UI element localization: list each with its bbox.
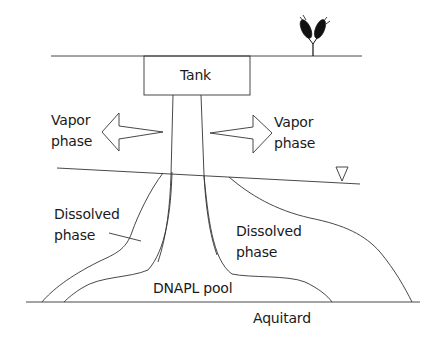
tank-label: Tank xyxy=(180,65,211,85)
dissolved-phase-left-label: Dissolved phase xyxy=(54,204,120,246)
vapor-right-line2: phase xyxy=(274,133,315,154)
vapor-phase-right-label: Vapor phase xyxy=(274,112,315,154)
stem-right-line xyxy=(201,95,217,255)
water-table-line xyxy=(57,168,360,184)
dissolved-left-line1: Dissolved xyxy=(54,204,120,225)
vapor-left-line1: Vapor xyxy=(51,110,92,131)
dissolved-right-line1: Dissolved xyxy=(236,221,302,242)
dissolved-phase-right-label: Dissolved phase xyxy=(236,221,302,263)
water-table-triangle xyxy=(336,167,348,181)
stem-left-line xyxy=(158,95,173,262)
vapor-left-line2: phase xyxy=(51,131,92,152)
vapor-arrow-right xyxy=(210,115,272,153)
dnapl-pool-label: DNAPL pool xyxy=(153,278,232,298)
plant-icon xyxy=(298,15,330,56)
vapor-right-line1: Vapor xyxy=(274,112,315,133)
dissolved-left-line2: phase xyxy=(54,225,120,246)
vapor-arrow-left xyxy=(102,113,163,151)
vapor-phase-left-label: Vapor phase xyxy=(51,110,92,152)
dissolved-right-line2: phase xyxy=(236,242,302,263)
aquitard-label: Aquitard xyxy=(253,308,311,328)
